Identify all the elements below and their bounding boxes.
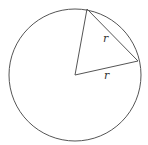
radius-to-top bbox=[75, 9, 87, 75]
chord bbox=[87, 9, 138, 61]
circle-diagram: r r bbox=[0, 0, 148, 145]
radius-label: r bbox=[104, 69, 110, 82]
chord-label: r bbox=[103, 32, 109, 45]
